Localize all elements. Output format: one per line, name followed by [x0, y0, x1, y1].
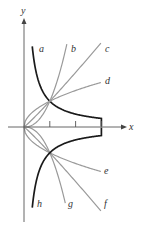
- curve-labels: abcdefgh: [37, 43, 111, 209]
- curve-label-c: c: [105, 43, 110, 54]
- curve-label-e: e: [104, 165, 109, 176]
- x-axis-arrow-icon: [121, 125, 127, 130]
- curve-e: [24, 127, 101, 172]
- curve-c: [24, 43, 101, 127]
- y-axis-arrow-icon: [22, 18, 27, 24]
- x-axis-label: x: [128, 121, 134, 132]
- curve-label-h: h: [37, 198, 42, 209]
- curve-label-b: b: [71, 43, 76, 54]
- x-ticks: [50, 121, 102, 127]
- curve-label-d: d: [105, 75, 111, 86]
- curve-label-f: f: [104, 198, 108, 209]
- curve-f: [24, 127, 101, 211]
- curve-label-g: g: [68, 198, 73, 209]
- curve-d: [24, 82, 101, 127]
- power-functions-diagram: x y abcdefgh: [0, 0, 141, 229]
- y-axis-label: y: [20, 5, 26, 16]
- curve-g: [24, 127, 65, 203]
- curve-label-a: a: [39, 43, 44, 54]
